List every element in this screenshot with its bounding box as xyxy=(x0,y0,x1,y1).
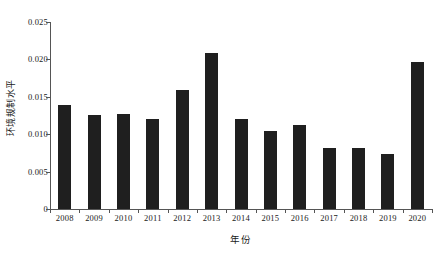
bar-chart-figure: 环境规制水平 00.0050.0100.0150.0200.025 200820… xyxy=(0,0,439,256)
bar xyxy=(205,53,218,209)
bar xyxy=(117,114,130,209)
y-axis-tick-label: 0.005 xyxy=(14,167,48,176)
bar xyxy=(176,90,189,209)
bar xyxy=(58,105,71,209)
bar xyxy=(264,131,277,209)
y-axis-tick-label: 0.015 xyxy=(14,92,48,101)
y-axis-tick-label: 0.010 xyxy=(14,130,48,139)
x-axis-title: 年份 xyxy=(50,232,432,246)
bar xyxy=(352,148,365,209)
bar xyxy=(146,119,159,210)
x-axis-tick-label: 2020 xyxy=(399,213,435,224)
bar xyxy=(235,119,248,209)
y-axis-tick-label: 0.025 xyxy=(14,18,48,27)
bar xyxy=(88,115,101,209)
bar xyxy=(381,154,394,209)
y-axis-tick-label-group: 00.0050.0100.0150.0200.025 xyxy=(14,0,48,215)
plot-area xyxy=(50,22,432,209)
x-axis-tick-label-group: 2008200920102011201220132014201520162017… xyxy=(50,213,432,227)
bar-series xyxy=(50,22,432,209)
y-axis-tick-label: 0 xyxy=(14,205,48,214)
bar xyxy=(293,125,306,209)
x-axis-line xyxy=(50,209,432,210)
bar xyxy=(411,62,424,209)
bar xyxy=(323,148,336,209)
y-axis-tick-label: 0.020 xyxy=(14,55,48,64)
